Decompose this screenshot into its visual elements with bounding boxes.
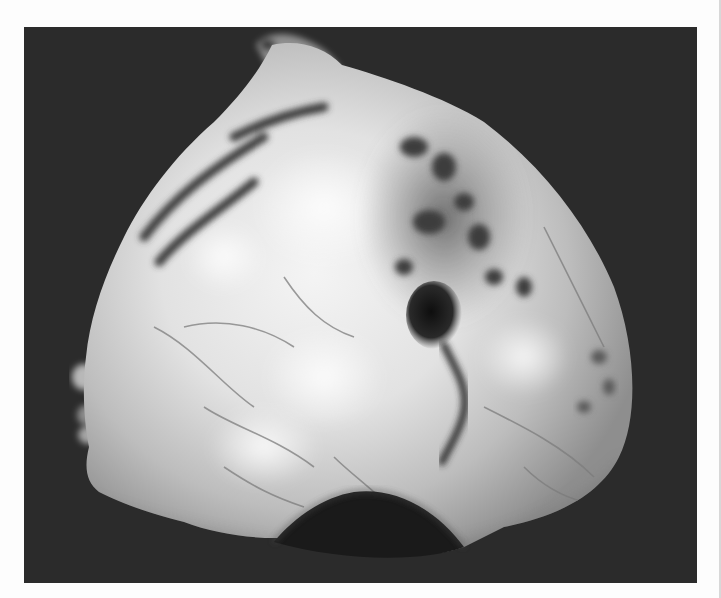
specimen-illustration [24,27,697,583]
caption-fragment [24,586,697,598]
page [0,0,721,598]
dark-lesion [406,281,462,349]
specimen-photograph [24,27,697,583]
